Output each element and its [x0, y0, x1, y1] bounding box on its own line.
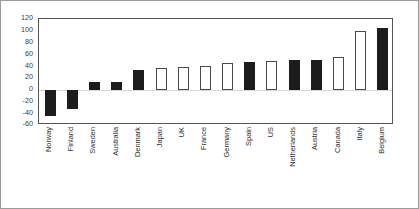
x-axis-category-label: Denmark: [134, 127, 142, 157]
bar: [111, 82, 122, 90]
bar: [244, 62, 255, 90]
x-axis-category-label: Italy: [356, 127, 364, 141]
x-axis-category-label: Finland: [67, 127, 75, 151]
zero-baseline: [39, 90, 392, 91]
bar: [178, 67, 189, 89]
x-axis-category-label: US: [267, 127, 275, 137]
y-axis-tick-label: 40: [7, 62, 33, 69]
bar: [289, 60, 300, 89]
x-axis-category-label: Japan: [156, 127, 164, 147]
x-axis-category-label: Austria: [311, 127, 319, 150]
x-axis-category-label: France: [200, 127, 208, 150]
bar: [67, 90, 78, 109]
y-axis-tick-label: -60: [7, 120, 33, 127]
y-axis-tick-label: 20: [7, 73, 33, 80]
x-axis-category-label: Norway: [45, 127, 53, 152]
x-axis-category-label: Canada: [334, 127, 342, 153]
bar: [377, 28, 388, 90]
x-axis-category-label: Germany: [223, 127, 231, 157]
bar: [200, 66, 211, 90]
bar: [266, 61, 277, 89]
y-axis-tick-label: -40: [7, 109, 33, 116]
bar: [355, 31, 366, 90]
bar: [89, 82, 100, 90]
y-axis-tick-label: 100: [7, 26, 33, 33]
y-axis-tick-label: 120: [7, 14, 33, 21]
x-axis-category-label: Spain: [245, 127, 253, 146]
bar: [333, 57, 344, 89]
y-axis-tick-label: 80: [7, 38, 33, 45]
x-axis-category-label: Sweden: [89, 127, 97, 154]
x-axis-category-label: UK: [178, 127, 186, 137]
x-axis-category-label: Netherlands: [289, 127, 297, 167]
bar: [45, 90, 56, 117]
y-axis-tick-label: -20: [7, 97, 33, 104]
y-axis-tick-label: 0: [7, 85, 33, 92]
bar: [133, 70, 144, 89]
x-axis-category-label: Australia: [112, 127, 120, 156]
bar: [311, 60, 322, 89]
y-axis-tick-label: 60: [7, 50, 33, 57]
bar: [222, 63, 233, 90]
plot-area: [38, 18, 393, 124]
chart-figure: 120100806040200-20-40-60 NorwayFinlandSw…: [0, 0, 419, 209]
bar: [156, 68, 167, 90]
x-axis-category-label: Belgium: [378, 127, 386, 154]
